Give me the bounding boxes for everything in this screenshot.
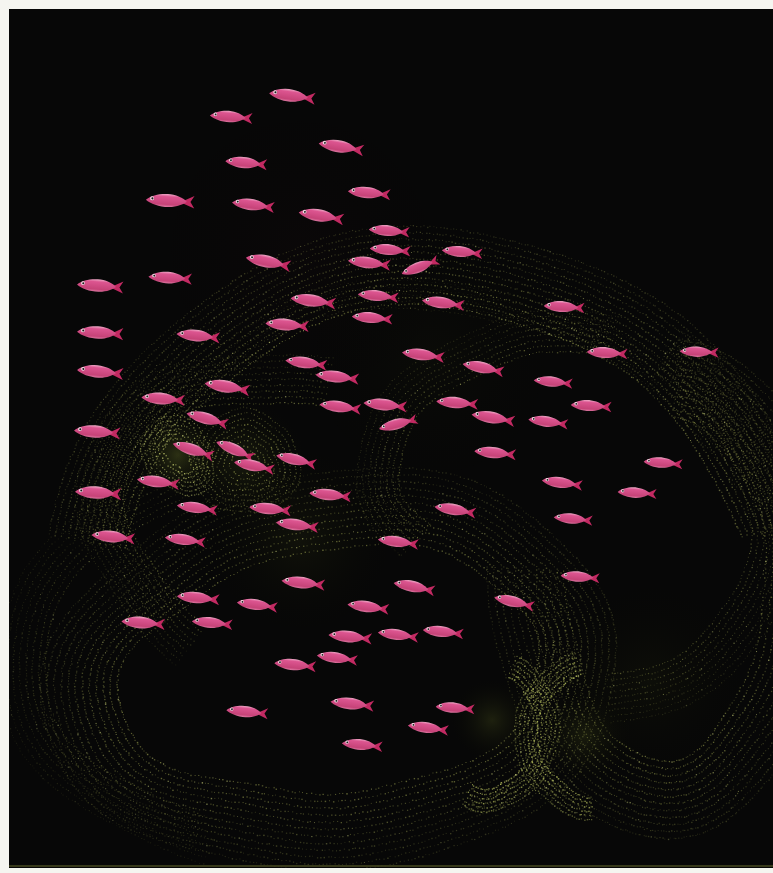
artwork-frame bbox=[0, 0, 773, 873]
fish-school-artwork bbox=[9, 9, 773, 868]
